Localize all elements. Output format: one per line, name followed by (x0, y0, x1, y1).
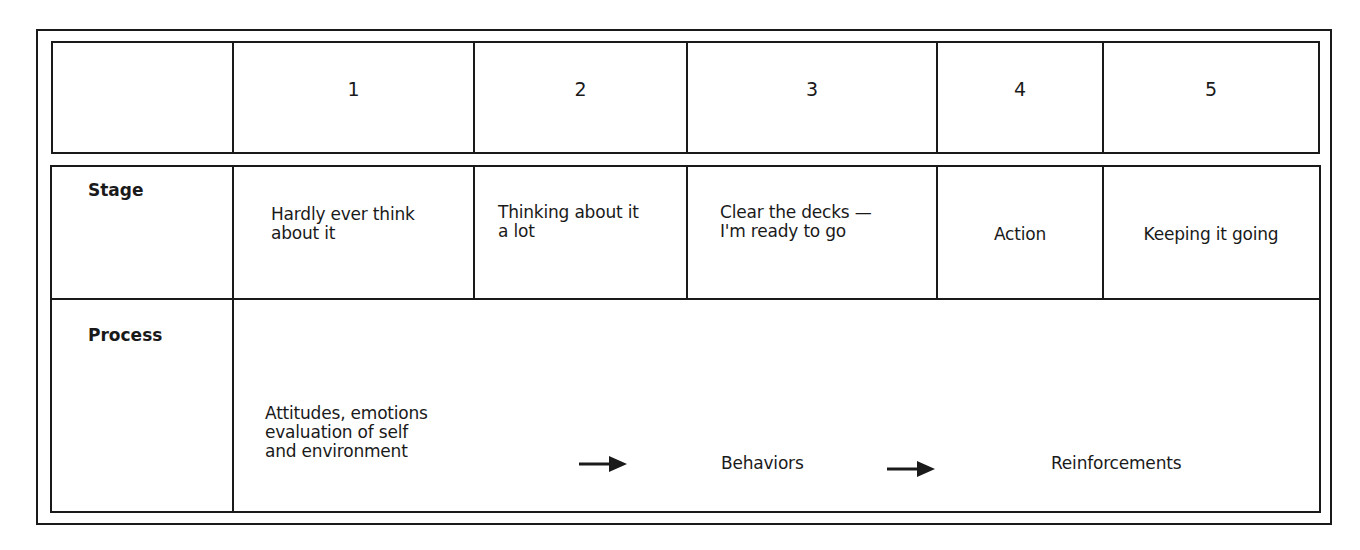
row-label-divider (232, 165, 234, 513)
stage-cell-3: Clear the decks — I'm ready to go (720, 203, 871, 241)
process-step-attitudes: Attitudes, emotions evaluation of self a… (265, 404, 428, 461)
column-header-1: 1 (234, 78, 473, 100)
row-divider (50, 298, 1321, 300)
process-step-reinforcements: Reinforcements (1051, 454, 1181, 473)
column-header-5: 5 (1104, 78, 1318, 100)
column-header-4: 4 (938, 78, 1102, 100)
stage-cell-1: Hardly ever think about it (271, 205, 415, 243)
stage-cell-2: Thinking about it a lot (498, 203, 639, 241)
stage-cell-5: Keeping it going (1104, 225, 1318, 244)
stage-row-label: Stage (88, 180, 144, 200)
arrow-right-icon (579, 455, 629, 473)
column-header-3: 3 (688, 78, 936, 100)
stage-column-divider (473, 165, 475, 299)
process-row-label: Process (88, 325, 162, 345)
stage-cell-4: Action (938, 225, 1102, 244)
stage-column-divider (686, 165, 688, 299)
arrow-right-icon (887, 460, 937, 478)
process-step-behaviors: Behaviors (721, 454, 804, 473)
column-header-2: 2 (475, 78, 686, 100)
